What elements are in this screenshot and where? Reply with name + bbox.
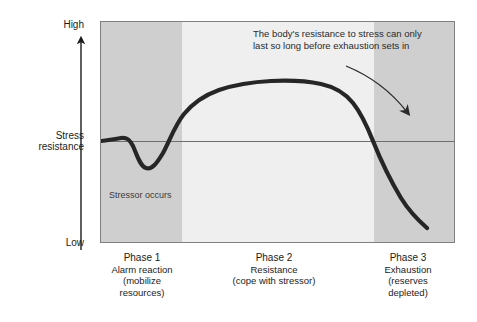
phase-3-title: Phase 3	[360, 252, 456, 264]
y-axis-title: Stress resistance	[8, 130, 84, 152]
phase-3-line3: (reserves	[360, 275, 456, 287]
phase-3-line2: Exhaustion	[360, 264, 456, 276]
y-axis-title-line2: resistance	[38, 141, 84, 152]
plot-area: Stressor occurs The body's resistance to…	[100, 21, 455, 243]
y-axis-title-line1: Stress	[56, 130, 84, 141]
phase-1-title: Phase 1	[96, 252, 188, 264]
phase-1-line4: resources)	[96, 287, 188, 299]
phase-1-caption: Phase 1 Alarm reaction (mobilize resourc…	[96, 252, 188, 298]
phase-2-caption: Phase 2 Resistance (cope with stressor)	[196, 252, 352, 287]
figure-canvas: High Stress resistance Low Stressor occu…	[0, 0, 477, 322]
y-axis-high-label: High	[36, 19, 84, 30]
phase-1-line3: (mobilize	[96, 275, 188, 287]
phase-1-line2: Alarm reaction	[96, 264, 188, 276]
y-axis-low-label: Low	[36, 237, 84, 248]
phase-3-caption: Phase 3 Exhaustion (reserves depleted)	[360, 252, 456, 298]
phase-2-title: Phase 2	[196, 252, 352, 264]
phase-2-line3: (cope with stressor)	[196, 275, 352, 287]
phase-2-line2: Resistance	[196, 264, 352, 276]
phase-3-line4: depleted)	[360, 287, 456, 299]
stress-resistance-curve	[101, 22, 455, 243]
